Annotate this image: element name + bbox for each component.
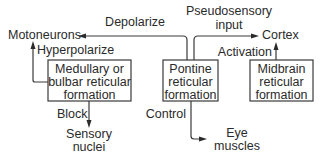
arrowhead-control <box>199 137 207 142</box>
arrowhead-pseudosensory <box>251 34 259 39</box>
node-sensory-nuclei-line1: Sensory <box>66 127 113 141</box>
arrowhead-hyperpolarize <box>31 41 36 49</box>
node-eye-muscles-line1: Eye <box>226 126 248 140</box>
node-midbrain-line2: reticular <box>259 75 303 89</box>
node-medullary-line2: bulbar reticular <box>48 75 131 89</box>
node-cortex: Cortex <box>262 28 300 42</box>
label-pseudosensory: Pseudosensory <box>186 4 273 18</box>
node-midbrain-line1: Midbrain <box>258 62 306 76</box>
node-sensory-nuclei-line2: nuclei <box>73 140 106 154</box>
arrowhead-activation <box>274 42 279 50</box>
label-control: Control <box>146 107 186 121</box>
label-activation: Activation <box>218 45 272 59</box>
node-pontine-line3: formation <box>164 88 216 102</box>
node-eye-muscles-line2: muscles <box>214 139 260 153</box>
reticular-formation-diagram: Depolarize Pseudosensory input Motoneuro… <box>0 0 322 162</box>
label-block: Block <box>57 107 88 121</box>
node-midbrain-line3: formation <box>255 88 307 102</box>
node-motoneurons: Motoneurons <box>8 28 81 42</box>
edge-control <box>191 101 201 139</box>
label-depolarize: Depolarize <box>105 15 165 29</box>
node-medullary-line3: formation <box>63 88 115 102</box>
node-pontine-line2: reticular <box>168 75 212 89</box>
label-pseudosensory-input: input <box>215 18 243 32</box>
node-medullary-line1: Medullary or <box>55 62 124 76</box>
label-hyperpolarize: Hyperpolarize <box>37 43 114 57</box>
node-pontine-line1: Pontine <box>169 62 211 76</box>
